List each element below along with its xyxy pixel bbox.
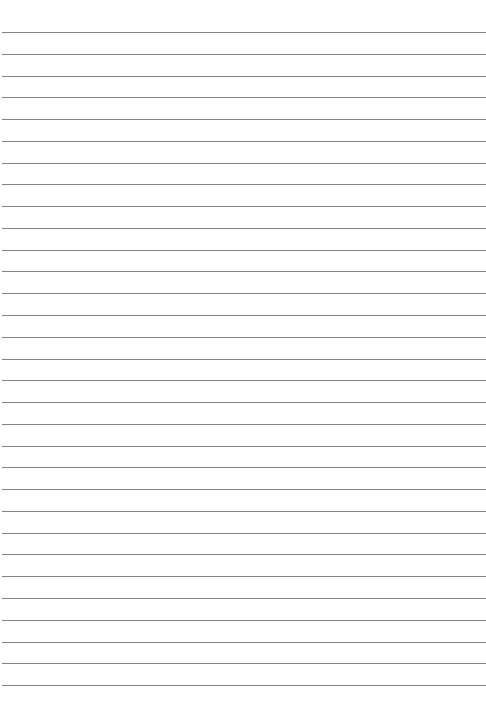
ruled-line [2,554,486,555]
ruled-line [2,598,486,599]
ruled-line [2,206,486,207]
ruled-line [2,642,486,643]
ruled-line [2,32,486,33]
lined-paper-sheet [0,0,486,703]
ruled-line [2,380,486,381]
ruled-line [2,141,486,142]
ruled-line [2,250,486,251]
ruled-line [2,620,486,621]
ruled-line [2,533,486,534]
ruled-line [2,337,486,338]
ruled-line [2,228,486,229]
ruled-line [2,293,486,294]
ruled-line [2,663,486,664]
ruled-line [2,119,486,120]
ruled-line [2,359,486,360]
ruled-line [2,467,486,468]
ruled-line [2,184,486,185]
ruled-line [2,315,486,316]
ruled-line [2,576,486,577]
ruled-line [2,489,486,490]
ruled-line [2,163,486,164]
ruled-line [2,97,486,98]
ruled-line [2,402,486,403]
ruled-line [2,54,486,55]
ruled-line [2,685,486,686]
ruled-line [2,511,486,512]
ruled-line [2,76,486,77]
ruled-line [2,271,486,272]
ruled-line [2,424,486,425]
ruled-line [2,446,486,447]
